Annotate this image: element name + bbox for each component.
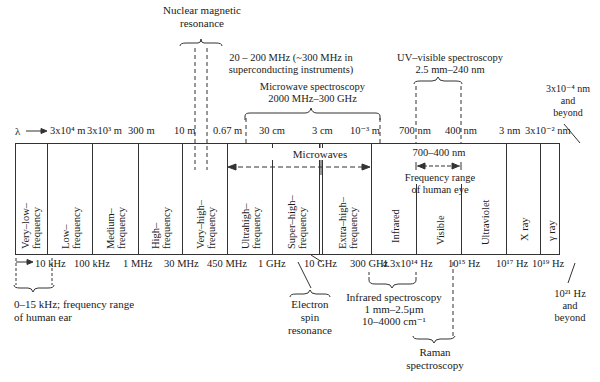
nmr-label: Nuclear magnetic resonance	[152, 4, 252, 30]
raman-line2: spectroscopy	[400, 359, 470, 372]
nmr-label-line1: Nuclear magnetic	[152, 4, 252, 17]
gamma-freq-line1: 10²¹ Hz	[545, 288, 595, 300]
freq-tick: 1 MHz	[123, 258, 152, 270]
uv-visible-label: UV–visible spectroscopy 2.5 mm–240 nm	[385, 52, 515, 76]
visible-range-label: 700–400 nm	[395, 147, 483, 159]
ir-line2: 1 mm–2.5μm	[339, 303, 449, 315]
band-x-ray: X ray	[506, 143, 541, 255]
nmr-range-line1: 20 – 200 MHz (~300 MHz in	[216, 52, 366, 64]
ear-line1: 0–15 kHz; frequency range	[14, 298, 134, 311]
gamma-freq-line2: and	[545, 300, 595, 312]
ir-line3: 10–4000 cm⁻¹	[339, 315, 449, 327]
gamma-wl-line3: beyond	[540, 107, 596, 119]
wl-tick: 3x10⁻² nm	[525, 125, 571, 137]
esr-line2: spin	[280, 311, 340, 324]
band-ultrahigh-frequency: Ultrahigh–frequency	[227, 143, 273, 255]
gamma-wl-line1: 3x10⁻⁴ nm	[540, 83, 596, 95]
wl-tick: 30 cm	[259, 125, 285, 137]
wl-tick: 10⁻³ m	[350, 125, 380, 137]
eye-line1: Frequency range	[385, 172, 495, 184]
band-label: Medium–frequency	[105, 207, 127, 249]
wl-tick: 3x10⁴ m	[50, 125, 85, 137]
freq-tick: 100 kHz	[74, 258, 110, 270]
band-gamma-ray: γ ray	[540, 143, 561, 255]
human-eye-label: Frequency range of human eye	[385, 172, 495, 196]
freq-tick: 10 kHz	[35, 258, 66, 270]
freq-tick: 4.3x10¹⁴ Hz	[382, 258, 433, 270]
microwave-spec-line2: 2000 MHz–300 GHz	[250, 93, 375, 105]
wl-tick: 0.67 m	[213, 125, 242, 137]
band-label: Extra–high–frequency	[337, 197, 359, 249]
microwave-spec-line1: Microwave spectroscopy	[250, 81, 375, 93]
band-very-high-frequency: Very–high–frequency	[182, 143, 228, 255]
freq-tick: 450 MHz	[207, 258, 247, 270]
freq-tick: 1 GHz	[258, 258, 286, 270]
wl-tick: 400 nm	[445, 125, 477, 137]
wl-tick: 10 m	[174, 125, 195, 137]
band-label: Low–frequency	[60, 207, 82, 249]
gamma-wl-line2: and	[540, 95, 596, 107]
band-infrared: Infrared	[371, 143, 417, 255]
wl-tick: 3 nm	[499, 125, 520, 137]
band-label: Ultraviolet	[479, 200, 490, 246]
band-label: Super–high–frequency	[286, 195, 308, 249]
freq-tick: 10¹⁹ Hz	[532, 258, 564, 270]
raman-label: Raman spectroscopy	[400, 346, 470, 372]
band-label: X ray	[519, 217, 530, 241]
microwaves-label: Microwaves	[270, 148, 370, 160]
band-label: High–frequency	[150, 207, 172, 249]
microwave-spectroscopy-label: Microwave spectroscopy 2000 MHz–300 GHz	[250, 81, 375, 105]
freq-tick: 10 GHz	[304, 258, 337, 270]
wl-tick: 700 nm	[399, 125, 431, 137]
freq-tick: 10¹⁷ Hz	[496, 258, 528, 270]
gamma-wavelength-label: 3x10⁻⁴ nm and beyond	[540, 83, 596, 119]
wl-tick: 3x10³ m	[87, 125, 122, 137]
nmr-range-label: 20 – 200 MHz (~300 MHz in superconductin…	[216, 52, 366, 76]
uv-vis-line1: UV–visible spectroscopy	[385, 52, 515, 64]
esr-label: Electron spin resonance	[280, 298, 340, 337]
band-label: Visible	[434, 215, 445, 245]
band-low-frequency: Low–frequency	[47, 143, 93, 255]
band-medium-frequency: Medium–frequency	[92, 143, 139, 255]
band-very-low-frequency: Very–low–frequency	[15, 143, 47, 255]
band-label: Infrared	[389, 209, 400, 243]
human-ear-label: 0–15 kHz; frequency range of human ear	[14, 298, 134, 324]
band-label: Ultrahigh–frequency	[240, 204, 262, 250]
esr-line1: Electron	[280, 298, 340, 311]
nmr-label-line2: resonance	[152, 17, 252, 30]
esr-line3: resonance	[280, 324, 340, 337]
gamma-freq-line3: beyond	[545, 312, 595, 324]
freq-tick: 30 MHz	[164, 258, 199, 270]
lambda-symbol: λ	[15, 125, 20, 137]
uv-vis-line2: 2.5 mm–240 nm	[385, 64, 515, 76]
band-label: γ ray	[546, 220, 557, 241]
ear-line2: of human ear	[14, 311, 134, 324]
raman-line1: Raman	[400, 346, 470, 359]
band-label: Very–high–frequency	[195, 200, 217, 249]
gamma-frequency-label: 10²¹ Hz and beyond	[545, 288, 595, 324]
ir-line1: Infrared spectroscopy	[339, 291, 449, 303]
wl-tick: 300 m	[128, 125, 155, 137]
wl-tick: 3 cm	[312, 125, 333, 137]
nmr-range-line2: superconducting instruments)	[216, 64, 366, 76]
band-label: Very–low–frequency	[20, 203, 42, 249]
infrared-spectroscopy-label: Infrared spectroscopy 1 mm–2.5μm 10–4000…	[339, 291, 449, 327]
band-high-frequency: High–frequency	[138, 143, 183, 255]
eye-line2: of human eye	[385, 184, 495, 196]
freq-tick: 10¹⁵ Hz	[448, 258, 480, 270]
